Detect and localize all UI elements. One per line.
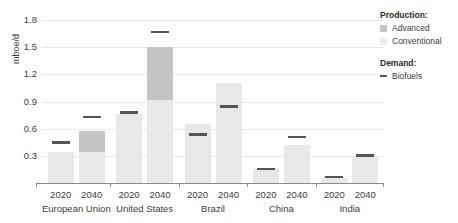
- x-axis-group-tick: [316, 183, 317, 187]
- legend-production-title: Production:: [380, 10, 458, 20]
- gridline: 1.8: [42, 20, 384, 21]
- bar-united-states-2040[interactable]: [147, 47, 173, 183]
- biofuels-demand-marker: [151, 31, 169, 34]
- legend-label-biofuels: Biofuels: [392, 71, 422, 81]
- legend-item-conventional[interactable]: Conventional: [380, 36, 458, 46]
- y-axis-tick-label: 0.6: [24, 123, 37, 134]
- x-axis-group-label: China: [247, 203, 315, 214]
- bar-segment-conventional: [48, 152, 74, 183]
- bar-segment-conventional: [79, 152, 105, 183]
- plot-area: 0.30.60.91.21.51.8: [42, 20, 384, 183]
- biofuels-demand-marker: [257, 168, 275, 171]
- bar-china-2040[interactable]: [284, 145, 310, 183]
- x-axis-year-label: 2040: [345, 189, 385, 200]
- legend-label-conventional: Conventional: [392, 36, 442, 46]
- legend-item-biofuels[interactable]: Biofuels: [380, 71, 458, 81]
- bar-segment-conventional: [352, 156, 378, 183]
- gridline: 1.5: [42, 47, 384, 48]
- bar-brazil-2040[interactable]: [216, 83, 242, 183]
- x-axis-year-label: 2040: [72, 189, 112, 200]
- biofuels-demand-marker: [325, 176, 343, 179]
- x-axis-group-label: Brazil: [179, 203, 247, 214]
- bar-segment-conventional: [284, 145, 310, 183]
- biofuels-demand-marker: [189, 133, 207, 136]
- bar-china-2020[interactable]: [253, 169, 279, 183]
- y-axis-title: mboe/d: [11, 19, 21, 79]
- legend-label-advanced: Advanced: [392, 23, 430, 33]
- x-axis-end-tick: [383, 183, 384, 187]
- legend-demand-title: Demand:: [380, 58, 458, 68]
- gridline: 0.9: [42, 102, 384, 103]
- biofuels-dash-icon: [380, 75, 387, 77]
- biofuels-demand-marker: [356, 154, 374, 157]
- x-axis-group-label: India: [316, 203, 384, 214]
- x-axis-group-tick: [110, 183, 111, 187]
- y-axis-tick-label: 0.9: [24, 96, 37, 107]
- x-axis-year-label: 2040: [277, 189, 317, 200]
- legend-item-advanced[interactable]: Advanced: [380, 23, 458, 33]
- biofuels-demand-marker: [120, 111, 138, 114]
- legend-spacer: [380, 49, 458, 58]
- bar-european-union-2040[interactable]: [79, 130, 105, 183]
- conventional-swatch-icon: [380, 38, 387, 45]
- bar-segment-conventional: [216, 83, 242, 183]
- bar-united-states-2020[interactable]: [116, 114, 142, 183]
- biofuels-demand-marker: [220, 105, 238, 108]
- bar-european-union-2020[interactable]: [48, 152, 74, 183]
- bar-segment-conventional: [116, 114, 142, 183]
- y-axis-tick-label: 0.3: [24, 150, 37, 161]
- x-axis-group-label: European Union: [42, 203, 110, 214]
- x-axis-end-tick: [36, 183, 37, 187]
- x-axis-year-label: 2040: [209, 189, 249, 200]
- gridline: 1.2: [42, 74, 384, 75]
- y-axis-tick-label: 1.2: [24, 68, 37, 79]
- bar-segment-conventional: [147, 100, 173, 183]
- bar-segment-advanced: [147, 47, 173, 100]
- advanced-swatch-icon: [380, 25, 387, 32]
- x-axis-year-label: 2040: [140, 189, 180, 200]
- x-axis-group-label: United States: [110, 203, 178, 214]
- y-axis-tick-label: 1.5: [24, 41, 37, 52]
- bar-segment-advanced: [79, 131, 105, 153]
- x-axis-group-tick: [179, 183, 180, 187]
- biofuels-demand-marker: [83, 116, 101, 119]
- bar-segment-conventional: [253, 169, 279, 183]
- y-axis-tick-label: 1.8: [24, 14, 37, 25]
- bar-india-2040[interactable]: [352, 156, 378, 183]
- legend: Production: Advanced Conventional Demand…: [380, 10, 458, 84]
- chart-root: mboe/d 0.30.60.91.21.51.8 20202040202020…: [0, 0, 458, 223]
- x-axis-line: [36, 183, 384, 184]
- biofuels-demand-marker: [52, 141, 70, 144]
- biofuels-demand-marker: [288, 136, 306, 139]
- x-axis-group-tick: [247, 183, 248, 187]
